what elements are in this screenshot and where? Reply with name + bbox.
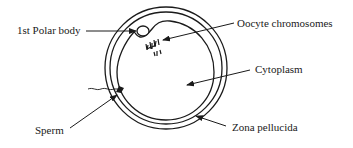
- sperm-head: [116, 86, 124, 93]
- cytoplasm-pointer: [187, 70, 250, 85]
- oocyte-diagram: 1st Polar body Oocyte chromosomes Cytopl…: [0, 0, 353, 148]
- zona-pellucida-rings: [105, 7, 227, 129]
- sperm-pointer: [70, 95, 117, 128]
- chromosomes-pointer: [163, 23, 234, 40]
- label-zona-pellucida: Zona pellucida: [232, 121, 298, 133]
- label-polar-body: 1st Polar body: [17, 24, 81, 36]
- oocyte-membrane: [117, 21, 214, 120]
- chromosomes-icon: [146, 39, 161, 56]
- sperm-tail: [88, 88, 120, 89]
- label-oocyte-chromosomes: Oocyte chromosomes: [237, 17, 333, 29]
- label-cytoplasm: Cytoplasm: [255, 63, 303, 75]
- label-sperm: Sperm: [35, 124, 64, 136]
- leader-lines: [70, 23, 250, 128]
- polar-body: [137, 26, 149, 36]
- zona-pellucida-pointer: [196, 116, 226, 126]
